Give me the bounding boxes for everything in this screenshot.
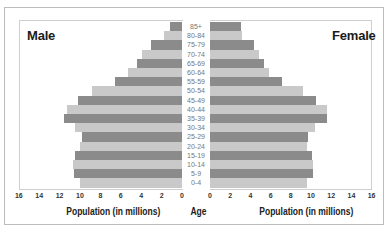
- age-label-85+: 85+: [183, 22, 209, 31]
- male-tick-8: 8: [92, 192, 108, 199]
- female-bar-15-19: [210, 151, 312, 160]
- female-tick-16: 16: [364, 192, 380, 199]
- male-title: Male: [27, 28, 55, 43]
- male-tick-14: 14: [31, 192, 47, 199]
- male-bar-10-14: [73, 160, 182, 169]
- female-tick-10: 10: [303, 192, 319, 199]
- female-tick-2: 2: [222, 192, 238, 199]
- male-bar-0-4: [80, 178, 182, 187]
- male-tick-6: 6: [113, 192, 129, 199]
- age-label-15-19: 15-19: [183, 151, 209, 160]
- male-bar-70-74: [142, 50, 182, 59]
- male-bar-50-54: [92, 86, 182, 95]
- male-bar-40-44: [67, 105, 182, 114]
- female-title: Female: [332, 28, 376, 43]
- male-tick-10: 10: [72, 192, 88, 199]
- female-bar-25-29: [210, 132, 308, 141]
- male-bar-20-24: [80, 142, 182, 151]
- female-bar-80-84: [210, 31, 242, 40]
- male-bar-65-69: [137, 59, 182, 68]
- age-label-25-29: 25-29: [183, 132, 209, 141]
- age-label-30-34: 30-34: [183, 123, 209, 132]
- female-tick-12: 12: [323, 192, 339, 199]
- male-bar-85+: [170, 22, 182, 31]
- female-bar-55-59: [210, 77, 282, 86]
- male-tick-12: 12: [52, 192, 68, 199]
- female-bar-85+: [210, 22, 241, 31]
- female-bar-5-9: [210, 169, 313, 178]
- male-bar-55-59: [115, 77, 182, 86]
- male-bar-5-9: [74, 169, 182, 178]
- female-bar-70-74: [210, 50, 259, 59]
- female-bar-35-39: [210, 114, 327, 123]
- female-bar-20-24: [210, 142, 307, 151]
- male-bar-80-84: [164, 31, 182, 40]
- female-tick-14: 14: [343, 192, 359, 199]
- female-axis-title: Population (in millions): [259, 206, 353, 217]
- female-tick-8: 8: [283, 192, 299, 199]
- female-bar-30-34: [210, 123, 315, 132]
- age-label-55-59: 55-59: [183, 77, 209, 86]
- age-label-60-64: 60-64: [183, 68, 209, 77]
- female-tick-6: 6: [263, 192, 279, 199]
- age-label-65-69: 65-69: [183, 59, 209, 68]
- female-tick-4: 4: [242, 192, 258, 199]
- male-bar-60-64: [128, 68, 182, 77]
- female-bar-0-4: [210, 178, 307, 187]
- female-bar-10-14: [210, 160, 313, 169]
- male-tick-0: 0: [174, 192, 190, 199]
- age-label-50-54: 50-54: [183, 86, 209, 95]
- male-tick-2: 2: [154, 192, 170, 199]
- male-bar-30-34: [75, 123, 182, 132]
- age-label-40-44: 40-44: [183, 105, 209, 114]
- age-label-35-39: 35-39: [183, 114, 209, 123]
- age-label-0-4: 0-4: [183, 178, 209, 187]
- female-bar-60-64: [210, 68, 269, 77]
- age-label-80-84: 80-84: [183, 31, 209, 40]
- age-label-5-9: 5-9: [183, 169, 209, 178]
- female-bar-75-79: [210, 40, 254, 49]
- male-bar-25-29: [82, 132, 182, 141]
- male-bar-15-19: [75, 151, 182, 160]
- age-axis-title: Age: [190, 206, 206, 217]
- female-bar-40-44: [210, 105, 327, 114]
- female-bar-65-69: [210, 59, 264, 68]
- male-bar-35-39: [64, 114, 182, 123]
- male-bar-75-79: [151, 40, 182, 49]
- age-label-10-14: 10-14: [183, 160, 209, 169]
- age-label-20-24: 20-24: [183, 142, 209, 151]
- male-tick-4: 4: [133, 192, 149, 199]
- age-label-75-79: 75-79: [183, 40, 209, 49]
- male-axis-title: Population (in millions): [66, 206, 160, 217]
- male-bar-45-49: [78, 96, 182, 105]
- male-tick-16: 16: [11, 192, 27, 199]
- female-bar-50-54: [210, 86, 303, 95]
- age-label-70-74: 70-74: [183, 50, 209, 59]
- age-label-45-49: 45-49: [183, 96, 209, 105]
- female-tick-0: 0: [202, 192, 218, 199]
- female-bar-45-49: [210, 96, 316, 105]
